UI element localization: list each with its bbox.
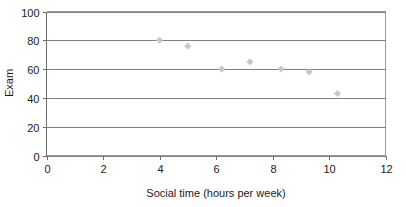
y-tick-label-80: 80: [27, 35, 39, 47]
chart-canvas: 020406080100 024681012 Social time (hour…: [0, 0, 406, 207]
y-tick-label-0: 0: [33, 151, 39, 163]
x-axis-title: Social time (hours per week): [146, 187, 285, 199]
x-tick-label-8: 8: [270, 163, 276, 175]
x-tick-label-2: 2: [100, 163, 106, 175]
y-tick-label-20: 20: [27, 122, 39, 134]
x-tick-label-6: 6: [213, 163, 219, 175]
x-tick-label-0: 0: [44, 163, 50, 175]
chart-background: [0, 0, 406, 207]
y-axis-title: Exam: [3, 69, 15, 97]
y-tick-label-40: 40: [27, 93, 39, 105]
x-tick-label-12: 12: [380, 163, 392, 175]
y-tick-label-100: 100: [21, 7, 39, 19]
y-tick-label-60: 60: [27, 64, 39, 76]
x-tick-label-4: 4: [157, 163, 163, 175]
scatter-plot-figure: 020406080100 024681012 Social time (hour…: [0, 0, 406, 207]
x-tick-label-10: 10: [323, 163, 335, 175]
